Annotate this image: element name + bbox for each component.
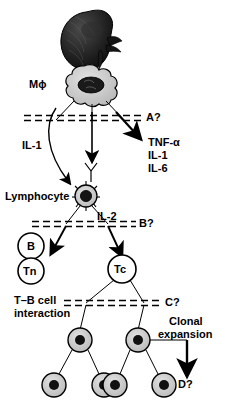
barrier-b-label: B? [139, 217, 154, 229]
barrier-d-label: D? [178, 378, 193, 390]
barrier-a-label: A? [146, 111, 161, 123]
lymphocyte-label: Lymphocyte [5, 190, 69, 202]
macrophage-cell [66, 65, 117, 107]
clonal-expansion-arrow [150, 340, 187, 370]
diagram-canvas: Mϕ A? IL-1 TNF-α IL-1 IL-6 Lymphocyte IL… [0, 0, 228, 410]
clonal-expansion-label-line1: Clonal [169, 315, 203, 327]
clone-child-3 [103, 373, 127, 397]
barrier-c [64, 301, 161, 306]
tn-cell-label: Tn [23, 265, 36, 277]
b-cell-label: B [27, 240, 35, 252]
arrow-to-tc [108, 226, 120, 252]
tc-cell-label: Tc [114, 263, 126, 275]
kidney-icon [61, 10, 122, 70]
arrow-to-tn [53, 226, 66, 250]
cytokine-tnf-label: TNF-α [148, 136, 180, 148]
il2-label: IL-2 [97, 210, 117, 222]
clone-child-1 [42, 373, 66, 397]
il1-left-label: IL-1 [22, 139, 42, 151]
diagram-graphics [0, 0, 228, 410]
cytokine-il6-label: IL-6 [148, 162, 168, 174]
tb-interaction-label-line2: interaction [14, 307, 70, 319]
clone-child-4 [152, 373, 176, 397]
antibody-y-icon [85, 163, 97, 182]
macrophage-label: Mϕ [29, 78, 46, 90]
tc-split-lines [86, 280, 144, 303]
barrier-c-label: C? [165, 296, 180, 308]
tb-interaction-label-line1: T–B cell [14, 294, 56, 306]
il1-arrow [49, 108, 68, 181]
clonal-expansion-label-line2: expansion [158, 328, 212, 340]
clone-parent-left [68, 328, 92, 352]
cytokine-il1-label: IL-1 [148, 149, 168, 161]
lymphocyte-cell [72, 181, 100, 211]
barrier-b [32, 222, 136, 227]
clone-parent-right [126, 328, 150, 352]
